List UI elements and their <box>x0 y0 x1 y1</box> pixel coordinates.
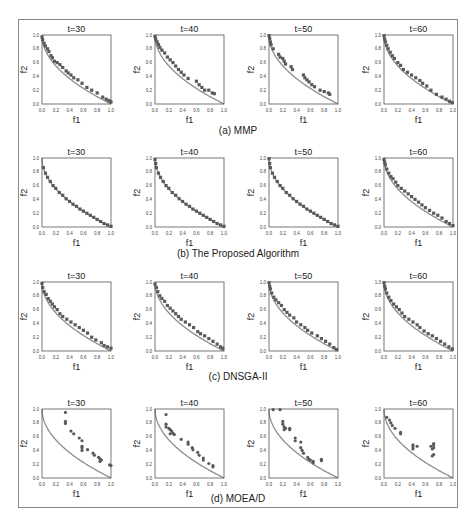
plot-the-proposed-algorithm-t50: t=500.00.00.20.20.40.40.60.60.80.81.01.0… <box>243 142 356 252</box>
svg-text:t=50: t=50 <box>295 398 313 408</box>
svg-text:0.6: 0.6 <box>33 183 40 188</box>
svg-text:0.6: 0.6 <box>193 108 200 113</box>
plot-moea-d-t40: t=400.00.00.20.20.40.40.60.60.80.81.01.0… <box>129 393 242 503</box>
svg-text:0.2: 0.2 <box>395 231 402 236</box>
svg-text:t=30: t=30 <box>68 271 86 281</box>
svg-text:0.8: 0.8 <box>94 355 101 360</box>
svg-text:t=60: t=60 <box>410 24 428 34</box>
svg-text:1.0: 1.0 <box>221 231 228 236</box>
svg-text:0.2: 0.2 <box>53 108 60 113</box>
svg-text:0.0: 0.0 <box>375 102 382 107</box>
svg-text:0.8: 0.8 <box>146 420 153 425</box>
svg-text:0.6: 0.6 <box>33 307 40 312</box>
svg-text:0.8: 0.8 <box>146 293 153 298</box>
svg-text:0.0: 0.0 <box>266 482 273 487</box>
svg-text:0.6: 0.6 <box>146 434 153 439</box>
svg-text:0.6: 0.6 <box>193 231 200 236</box>
svg-text:0.0: 0.0 <box>152 108 159 113</box>
svg-text:0.8: 0.8 <box>94 108 101 113</box>
svg-text:0.6: 0.6 <box>422 355 429 360</box>
svg-text:0.0: 0.0 <box>152 355 159 360</box>
svg-text:1.0: 1.0 <box>108 482 115 487</box>
svg-text:0.4: 0.4 <box>33 197 40 202</box>
caption-mmp: (a) MMP <box>18 125 458 136</box>
svg-text:1.0: 1.0 <box>146 407 153 412</box>
svg-text:0.2: 0.2 <box>280 108 287 113</box>
svg-text:f2: f2 <box>132 440 142 448</box>
svg-text:0.0: 0.0 <box>146 102 153 107</box>
svg-text:0.4: 0.4 <box>179 108 186 113</box>
svg-text:0.0: 0.0 <box>381 482 388 487</box>
svg-text:0.8: 0.8 <box>321 231 328 236</box>
svg-text:f1: f1 <box>415 238 423 248</box>
svg-text:f2: f2 <box>361 313 371 321</box>
svg-text:t=30: t=30 <box>68 398 86 408</box>
svg-text:f2: f2 <box>361 66 371 74</box>
svg-text:0.4: 0.4 <box>146 74 153 79</box>
svg-text:0.8: 0.8 <box>375 46 382 51</box>
svg-text:1.0: 1.0 <box>375 407 382 412</box>
svg-text:0.6: 0.6 <box>260 307 267 312</box>
svg-text:1.0: 1.0 <box>221 355 228 360</box>
svg-text:t=40: t=40 <box>181 24 199 34</box>
svg-text:0.6: 0.6 <box>146 307 153 312</box>
svg-text:0.2: 0.2 <box>146 462 153 467</box>
svg-text:1.0: 1.0 <box>335 231 342 236</box>
svg-text:0.4: 0.4 <box>375 321 382 326</box>
plot-mmp-t50: t=500.00.00.20.20.40.40.60.60.80.81.01.0… <box>243 19 356 129</box>
svg-text:0.2: 0.2 <box>33 462 40 467</box>
svg-text:0.2: 0.2 <box>260 88 267 93</box>
svg-text:0.8: 0.8 <box>33 169 40 174</box>
svg-text:0.2: 0.2 <box>53 355 60 360</box>
svg-text:0.6: 0.6 <box>307 108 314 113</box>
svg-text:0.4: 0.4 <box>66 482 73 487</box>
plot-moea-d-t30: t=300.00.00.20.20.40.40.60.60.80.81.01.0… <box>16 393 129 503</box>
svg-text:t=50: t=50 <box>295 271 313 281</box>
svg-text:1.0: 1.0 <box>260 156 267 161</box>
svg-text:0.0: 0.0 <box>260 349 267 354</box>
svg-text:0.4: 0.4 <box>179 231 186 236</box>
svg-text:0.0: 0.0 <box>260 225 267 230</box>
svg-text:0.6: 0.6 <box>193 482 200 487</box>
svg-text:f2: f2 <box>19 189 29 197</box>
svg-text:0.4: 0.4 <box>146 448 153 453</box>
svg-text:0.8: 0.8 <box>436 231 443 236</box>
svg-text:1.0: 1.0 <box>335 482 342 487</box>
svg-text:0.0: 0.0 <box>266 355 273 360</box>
plot-the-proposed-algorithm-t60: t=600.00.00.20.20.40.40.60.60.80.81.01.0… <box>358 142 471 252</box>
svg-text:0.2: 0.2 <box>260 462 267 467</box>
svg-text:0.2: 0.2 <box>33 211 40 216</box>
svg-text:1.0: 1.0 <box>375 156 382 161</box>
svg-text:0.8: 0.8 <box>436 108 443 113</box>
svg-text:0.6: 0.6 <box>307 231 314 236</box>
svg-text:0.0: 0.0 <box>266 231 273 236</box>
svg-text:0.8: 0.8 <box>260 169 267 174</box>
svg-text:0.4: 0.4 <box>408 355 415 360</box>
svg-text:1.0: 1.0 <box>221 108 228 113</box>
svg-text:1.0: 1.0 <box>33 156 40 161</box>
svg-text:f1: f1 <box>415 115 423 125</box>
svg-text:0.6: 0.6 <box>260 183 267 188</box>
plot-mmp-t60: t=600.00.00.20.20.40.40.60.60.80.81.01.0… <box>358 19 471 129</box>
svg-text:0.2: 0.2 <box>395 355 402 360</box>
svg-text:0.8: 0.8 <box>260 46 267 51</box>
svg-text:f2: f2 <box>246 313 256 321</box>
svg-text:t=60: t=60 <box>410 271 428 281</box>
svg-text:0.4: 0.4 <box>375 74 382 79</box>
svg-text:0.2: 0.2 <box>146 88 153 93</box>
svg-text:1.0: 1.0 <box>221 482 228 487</box>
svg-text:1.0: 1.0 <box>335 108 342 113</box>
svg-text:1.0: 1.0 <box>33 407 40 412</box>
svg-text:0.2: 0.2 <box>33 335 40 340</box>
svg-text:0.4: 0.4 <box>408 108 415 113</box>
svg-text:0.6: 0.6 <box>375 434 382 439</box>
svg-text:1.0: 1.0 <box>108 231 115 236</box>
svg-text:0.0: 0.0 <box>39 108 46 113</box>
svg-text:0.8: 0.8 <box>375 169 382 174</box>
svg-text:0.8: 0.8 <box>207 482 214 487</box>
svg-text:0.4: 0.4 <box>260 197 267 202</box>
svg-text:0.2: 0.2 <box>166 231 173 236</box>
svg-text:0.2: 0.2 <box>166 355 173 360</box>
svg-text:0.0: 0.0 <box>146 225 153 230</box>
svg-text:0.8: 0.8 <box>375 420 382 425</box>
